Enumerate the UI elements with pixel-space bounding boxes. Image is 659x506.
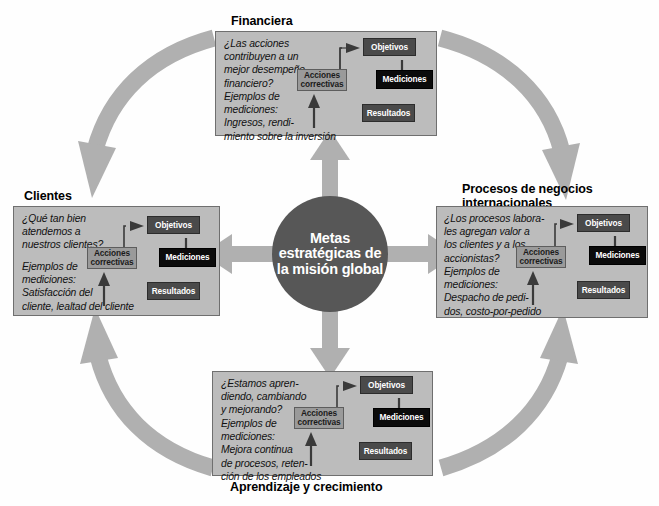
panel-title-clientes: Clientes — [24, 189, 72, 203]
hub-arrow-down — [310, 308, 350, 378]
node-objetivos-procesos: Objetivos — [577, 214, 630, 232]
arc-aprendizaje-to-clientes — [80, 308, 213, 468]
panel-financiera: ¿Las acciones contribuyen a un mejor des… — [215, 31, 437, 136]
center-hub-label: Metas estratégicas de la misión global — [272, 231, 388, 278]
panel-title-financiera: Financiera — [231, 14, 293, 28]
node-resultados-financiera: Resultados — [362, 104, 415, 122]
node-resultados-procesos: Resultados — [577, 281, 630, 299]
panel-clientes: ¿Qué tan bien atendemos a nuestros clien… — [13, 206, 220, 316]
node-resultados-clientes: Resultados — [147, 282, 200, 300]
node-acciones-correctivas-procesos: Acciones correctivas — [516, 246, 566, 268]
node-resultados-aprendizaje: Resultados — [359, 442, 412, 460]
node-objetivos-aprendizaje: Objetivos — [360, 376, 413, 394]
node-mediciones-procesos: Mediciones — [589, 246, 646, 265]
panel-title-aprendizaje: Aprendizaje y crecimiento — [230, 480, 382, 494]
arc-financiera-to-clientes — [78, 38, 214, 198]
arc-aprendizaje-to-procesos — [441, 308, 578, 468]
arc-financiera-to-procesos — [440, 38, 580, 200]
node-mediciones-clientes: Mediciones — [159, 248, 216, 267]
node-objetivos-clientes: Objetivos — [147, 216, 200, 234]
node-mediciones-financiera: Mediciones — [376, 70, 433, 89]
panel-procesos: ¿Los procesos labora- les agregan valor … — [436, 206, 648, 318]
panel-aprendizaje: ¿Estamos apren- diendo, cambiando y mejo… — [212, 371, 433, 476]
node-acciones-correctivas-aprendizaje: Acciones correctivas — [294, 407, 344, 429]
balanced-scorecard-diagram: Metas estratégicas de la misión global F… — [0, 0, 659, 506]
node-mediciones-aprendizaje: Mediciones — [373, 408, 430, 427]
center-hub: Metas estratégicas de la misión global — [272, 196, 388, 312]
node-acciones-correctivas-financiera: Acciones correctivas — [297, 69, 347, 91]
node-acciones-correctivas-clientes: Acciones correctivas — [87, 247, 137, 269]
node-objetivos-financiera: Objetivos — [363, 38, 416, 56]
